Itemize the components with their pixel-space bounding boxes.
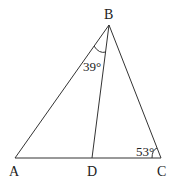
angle-label-b: 39° (83, 59, 101, 74)
vertex-label-a: A (9, 164, 20, 179)
segment-bc (109, 25, 161, 158)
angle-label-c: 53° (136, 144, 154, 159)
vertex-label-d: D (87, 164, 97, 179)
geometry-diagram: B A D C 39° 53° (0, 0, 178, 183)
triangle-figure: B A D C 39° 53° (0, 0, 178, 183)
angle-arc-b (94, 46, 106, 52)
vertex-label-b: B (104, 7, 113, 22)
vertex-label-c: C (157, 164, 166, 179)
